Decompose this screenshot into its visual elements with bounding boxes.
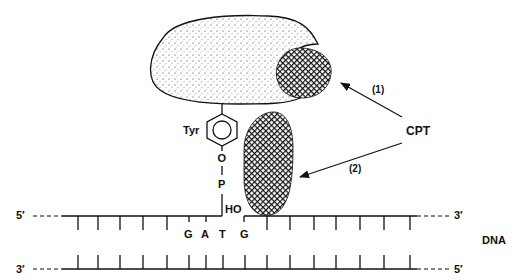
base-4: G xyxy=(240,228,249,240)
base-1: G xyxy=(184,228,193,240)
hydroxyl-label: HO xyxy=(225,203,242,215)
cpt-binding-site-1 xyxy=(276,48,331,98)
base-3: T xyxy=(219,228,226,240)
dna-bottom-strand: 3′ 5′ xyxy=(16,255,463,275)
pathway-1-label: (1) xyxy=(372,84,384,95)
dna-label: DNA xyxy=(482,234,506,246)
tyrosine-ring-icon xyxy=(207,114,237,146)
tyr-label: Tyr xyxy=(183,124,200,136)
oxygen-label: O xyxy=(218,152,227,164)
top-3prime-label: 3′ xyxy=(454,209,463,221)
cpt-binding-site-2 xyxy=(244,112,293,215)
top-5prime-label: 5′ xyxy=(16,209,25,221)
base-2: A xyxy=(201,228,209,240)
cpt-label: CPT xyxy=(406,124,431,138)
dna-sequence: G A T G xyxy=(184,228,249,240)
phosphorus-label: P xyxy=(218,178,225,190)
bottom-5prime-label: 5′ xyxy=(454,263,463,275)
diagram-canvas: Tyr O P HO (1) (2) CPT 5′ 3′ xyxy=(0,0,514,280)
pathway-2-label: (2) xyxy=(349,163,361,174)
bottom-3prime-label: 3′ xyxy=(16,263,25,275)
